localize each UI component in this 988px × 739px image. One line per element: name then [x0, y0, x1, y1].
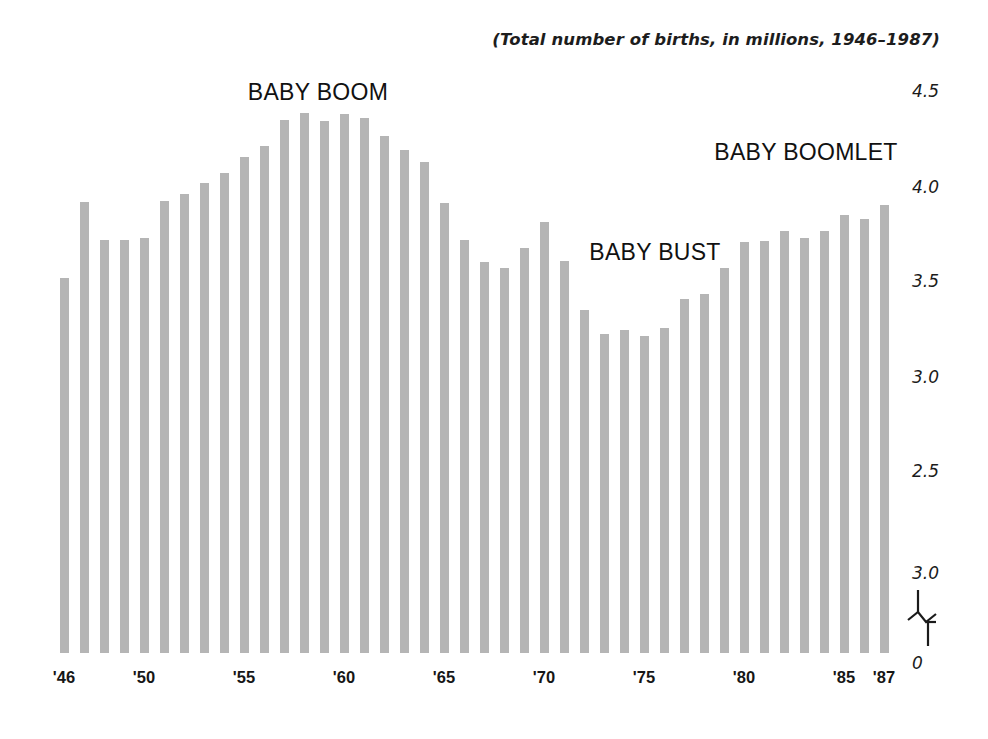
bar-1976: [660, 328, 669, 653]
x-tick-label: '65: [433, 668, 455, 687]
bar-1956: [260, 146, 269, 653]
x-tick-label: '50: [133, 668, 155, 687]
bar-1985: [840, 215, 849, 653]
bar-1984: [820, 231, 829, 653]
y-tick-label: 3.0: [912, 563, 939, 583]
y-tick-label: 4.5: [912, 81, 939, 101]
bar-1980: [740, 242, 749, 653]
bar-1957: [280, 120, 289, 653]
x-tick-label: '55: [233, 668, 255, 687]
bar-1977: [680, 299, 689, 653]
axis-break-icon: [906, 588, 946, 650]
bar-1981: [760, 241, 769, 653]
x-tick-label: '75: [633, 668, 655, 687]
bar-1958: [300, 113, 309, 653]
bar-1978: [700, 294, 709, 653]
x-tick-label: '87: [873, 668, 895, 687]
bar-1971: [560, 261, 569, 653]
y-tick-label: 2.5: [912, 461, 939, 481]
bar-1952: [180, 194, 189, 653]
bar-1967: [480, 262, 489, 653]
bar-1951: [160, 201, 169, 653]
bar-1969: [520, 248, 529, 653]
bar-1982: [780, 231, 789, 653]
bar-1986: [860, 219, 869, 653]
y-tick-label: 0: [912, 653, 923, 673]
y-tick-label: 3.0: [912, 367, 939, 387]
bar-1946: [60, 278, 69, 653]
bar-1987: [880, 205, 889, 653]
bar-1973: [600, 334, 609, 653]
x-tick-label: '60: [333, 668, 355, 687]
bar-1964: [420, 162, 429, 653]
bar-1962: [380, 136, 389, 653]
bar-1963: [400, 150, 409, 653]
bar-1955: [240, 157, 249, 653]
bar-1970: [540, 222, 549, 653]
bar-1979: [720, 268, 729, 653]
bar-1950: [140, 238, 149, 653]
y-tick-label: 3.5: [912, 271, 939, 291]
bar-1965: [440, 203, 449, 653]
bar-1983: [800, 238, 809, 653]
chart-page: (Total number of births, in millions, 19…: [0, 0, 988, 739]
bar-1960: [340, 114, 349, 653]
bar-1968: [500, 268, 509, 653]
y-tick-label: 4.0: [912, 177, 939, 197]
bar-1975: [640, 336, 649, 653]
annotation-baby-boom: BABY BOOM: [248, 79, 388, 106]
bar-1947: [80, 202, 89, 653]
x-tick-label: '85: [833, 668, 855, 687]
bar-1961: [360, 118, 369, 653]
annotation-baby-bust: BABY BUST: [589, 239, 720, 266]
bar-1959: [320, 121, 329, 653]
plot-area: 4.54.03.53.02.53.00 '46'50'55'60'65'70'7…: [0, 0, 988, 739]
bar-1974: [620, 330, 629, 653]
bar-1954: [220, 173, 229, 653]
x-tick-label: '80: [733, 668, 755, 687]
x-tick-label: '70: [533, 668, 555, 687]
bar-1966: [460, 240, 469, 653]
bar-1953: [200, 183, 209, 653]
bar-1948: [100, 240, 109, 653]
annotation-baby-boomlet: BABY BOOMLET: [714, 139, 897, 166]
bar-1972: [580, 310, 589, 653]
x-tick-label: '46: [53, 668, 75, 687]
bar-1949: [120, 240, 129, 653]
